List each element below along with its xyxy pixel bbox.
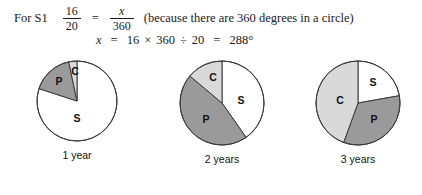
pie-1-label-c: C (71, 65, 79, 77)
divide-sign: ÷ (180, 33, 187, 48)
pie-1-svg: SPC (34, 58, 120, 144)
equals-sign: = (92, 11, 99, 26)
fraction-left-denominator: 20 (63, 19, 81, 32)
pie-3-svg: SPC (313, 58, 403, 148)
pie-3-label-s: S (369, 76, 376, 88)
pie-3-label-c: C (336, 94, 344, 106)
fraction-right: x 360 (110, 5, 134, 32)
pie-chart-3-years: SPC 3 years (306, 58, 410, 165)
fraction-left: 16 20 (63, 5, 81, 32)
pie-chart-2-years: SPC 2 years (170, 58, 274, 165)
pie-1-label-s: S (73, 112, 80, 124)
pie-2-label-s: S (237, 94, 244, 106)
result-value: 288° (229, 33, 253, 48)
operand-a: 16 (127, 33, 140, 48)
pie-3-label-p: P (370, 113, 377, 125)
pie-1-caption: 1 year (26, 149, 128, 161)
pie-2-canvas: SPC (177, 58, 267, 148)
pie-2-label-c: C (209, 71, 217, 83)
pie-chart-row: SPC 1 year SPC 2 years SPC 3 years (0, 58, 422, 195)
explanatory-note: (because there are 360 degrees in a circ… (144, 11, 354, 26)
equals-sign-1: = (111, 33, 118, 48)
operand-b: 360 (156, 33, 175, 48)
fraction-right-numerator: x (116, 5, 127, 18)
pie-1-canvas: SPC (34, 58, 120, 144)
fraction-right-denominator: 360 (110, 19, 134, 32)
question-label: For S1 (14, 11, 48, 26)
pie-2-svg: SPC (177, 58, 267, 148)
proportion-equation-line: For S1 16 20 = x 360 (because there are … (14, 5, 354, 32)
equals-sign-2: = (213, 33, 220, 48)
pie-3-caption: 3 years (306, 153, 410, 165)
pie-chart-1-year: SPC 1 year (26, 58, 128, 161)
multiply-sign: × (144, 33, 151, 48)
pie-3-canvas: SPC (313, 58, 403, 148)
worked-solution-block: For S1 16 20 = x 360 (because there are … (0, 0, 422, 58)
solution-equation-line: x = 16 × 360 ÷ 20 = 288° (96, 33, 253, 48)
pie-2-caption: 2 years (170, 153, 274, 165)
pie-2-label-p: P (202, 113, 209, 125)
operand-c: 20 (192, 33, 205, 48)
pie-1-label-p: P (55, 75, 62, 87)
fraction-left-numerator: 16 (63, 5, 81, 18)
variable-x: x (96, 33, 102, 48)
